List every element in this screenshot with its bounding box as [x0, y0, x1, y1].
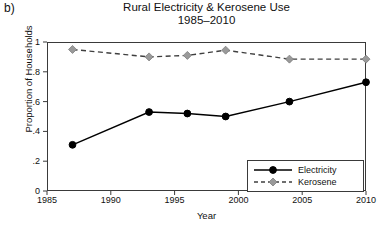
series-line-kerosene: [73, 49, 366, 59]
series-line-electricity: [73, 82, 366, 145]
data-point-marker: [362, 55, 370, 63]
data-point-marker: [183, 51, 191, 59]
data-point-marker: [222, 113, 229, 120]
plot-area: ElectricityKerosene: [0, 0, 379, 228]
data-point-marker: [146, 109, 153, 116]
figure: b) Rural Electricity & Kerosene Use 1985…: [0, 0, 379, 228]
data-point-marker: [285, 55, 293, 63]
legend-label: Electricity: [298, 165, 337, 175]
data-point-marker: [363, 79, 370, 86]
legend-label: Kerosene: [298, 177, 337, 187]
data-point-marker: [69, 45, 77, 53]
data-point-marker: [145, 53, 153, 61]
data-point-marker: [184, 110, 191, 117]
data-point-marker: [270, 167, 277, 174]
data-point-marker: [286, 98, 293, 105]
data-point-marker: [222, 46, 230, 54]
data-point-marker: [69, 141, 76, 148]
